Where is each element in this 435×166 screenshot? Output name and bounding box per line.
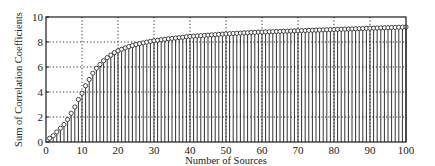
stem-chart: 0246810 0102030405060708090100 Number of… xyxy=(0,0,435,166)
data-point-marker xyxy=(102,59,106,63)
y-tick-label: 4 xyxy=(38,86,44,98)
data-point-marker xyxy=(84,84,88,88)
data-stems xyxy=(50,29,406,142)
data-point-marker xyxy=(98,62,102,66)
x-tick-label: 90 xyxy=(365,144,377,156)
data-point-marker xyxy=(55,130,59,134)
data-point-marker xyxy=(91,71,95,75)
y-tick-label: 8 xyxy=(38,36,44,48)
x-tick-label: 20 xyxy=(113,144,125,156)
data-point-marker xyxy=(66,117,70,121)
x-tick-label: 10 xyxy=(77,144,89,156)
x-tick-label: 100 xyxy=(398,144,415,156)
data-point-marker xyxy=(51,134,55,138)
x-tick-label: 80 xyxy=(329,144,341,156)
data-point-marker xyxy=(73,105,77,109)
data-point-marker xyxy=(69,111,73,115)
y-tick-label: 2 xyxy=(38,111,44,123)
data-point-marker xyxy=(58,126,62,130)
x-tick-label: 30 xyxy=(149,144,161,156)
x-tick-label: 0 xyxy=(43,144,49,156)
data-point-marker xyxy=(94,66,98,70)
data-point-marker xyxy=(76,97,80,101)
x-tick-label: 70 xyxy=(293,144,305,156)
x-axis-label: Number of Sources xyxy=(185,155,267,166)
y-tick-label: 6 xyxy=(38,61,44,73)
data-point-marker xyxy=(80,91,84,95)
data-point-marker xyxy=(62,122,66,126)
data-point-marker xyxy=(87,77,91,81)
y-tick-label: 10 xyxy=(32,11,44,23)
y-axis-label: Sum of Correlation Coefficients xyxy=(13,12,24,147)
